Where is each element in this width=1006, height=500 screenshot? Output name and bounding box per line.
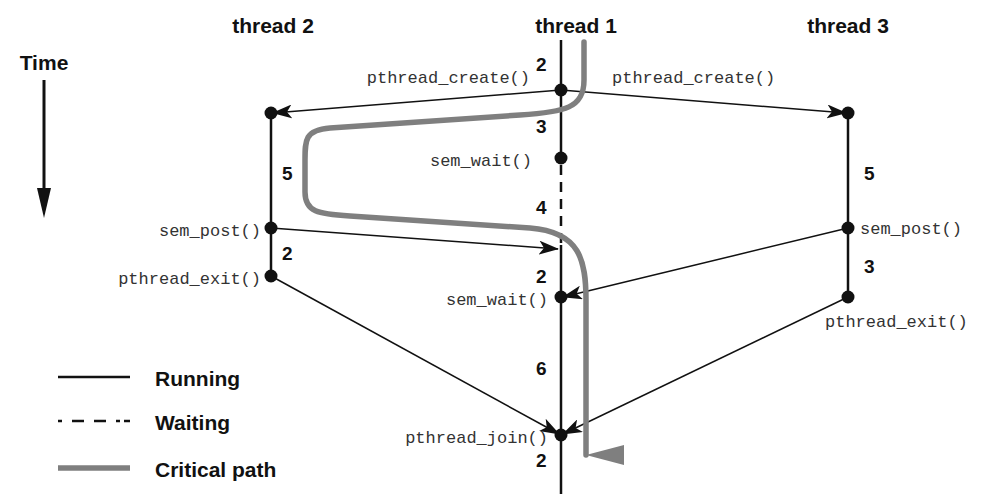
t1-sem-wait-2-dot	[555, 291, 568, 304]
legend-waiting-label: Waiting	[155, 411, 230, 434]
t3-exit-dot	[842, 291, 855, 304]
event-dots	[265, 84, 855, 442]
t1-create-left-label: pthread_create()	[367, 69, 530, 88]
t3-sem-post-label: sem_post()	[860, 220, 962, 239]
t2-seg-2-duration: 2	[282, 243, 293, 264]
t3-exit-label: pthread_exit()	[825, 313, 968, 332]
arrow-t3-exit-to-join	[563, 297, 848, 434]
t3-seg-1-duration: 5	[864, 163, 875, 184]
legend-running-label: Running	[155, 367, 240, 390]
time-axis-label: Time	[20, 51, 69, 74]
t1-join-dot	[555, 429, 568, 442]
t1-seg-5-duration: 6	[536, 358, 547, 379]
thread-2-header: thread 2	[232, 14, 314, 37]
t1-seg-4-duration: 2	[536, 266, 547, 287]
t2-sem-post-dot	[265, 222, 278, 235]
arrow-t3-post-to-t1	[563, 228, 848, 297]
legend-critical-label: Critical path	[155, 458, 276, 481]
arrow-create-thread2	[273, 90, 561, 113]
thread-1-header: thread 1	[535, 14, 617, 37]
t2-seg-1-duration: 5	[282, 163, 293, 184]
t1-sem-wait-2-label: sem_wait()	[446, 291, 548, 310]
t2-exit-dot	[265, 270, 278, 283]
t1-create-right-label: pthread_create()	[612, 69, 775, 88]
legend: Running Waiting Critical path	[58, 367, 276, 481]
arrow-create-thread3	[561, 90, 846, 113]
t1-sem-wait-dot	[555, 152, 568, 165]
thread-timeline-diagram: thread 2 thread 1 thread 3 Time	[0, 0, 1006, 500]
thread-3-header: thread 3	[807, 14, 889, 37]
t2-start-dot	[265, 107, 278, 120]
time-axis: Time	[20, 51, 69, 218]
t2-sem-post-label: sem_post()	[159, 222, 261, 241]
t3-start-dot	[842, 107, 855, 120]
t3-seg-2-duration: 3	[864, 256, 875, 277]
t1-seg-6-duration: 2	[536, 450, 547, 471]
t1-create-dot	[555, 84, 568, 97]
time-arrow-icon	[37, 188, 51, 218]
t3-sem-post-dot	[842, 222, 855, 235]
t1-seg-3-duration: 4	[536, 197, 547, 218]
t1-join-label: pthread_join()	[405, 429, 548, 448]
t1-sem-wait-label: sem_wait()	[430, 152, 532, 171]
arrow-t2-post-to-t1	[271, 228, 558, 249]
t1-seg-2-duration: 3	[536, 116, 547, 137]
t2-exit-label: pthread_exit()	[118, 270, 261, 289]
t1-seg-1-duration: 2	[536, 54, 547, 75]
